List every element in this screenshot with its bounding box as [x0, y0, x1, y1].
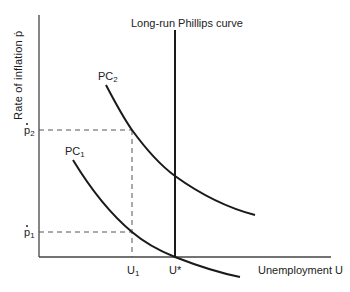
p2-tick-label: p2 — [24, 125, 35, 138]
lrpc-label: Long-run Phillips curve — [131, 18, 243, 29]
p1-tick-text: p — [24, 227, 30, 238]
pc2-curve — [106, 85, 255, 215]
pc2-label: PC2 — [98, 71, 118, 84]
p2-tick-sub: 2 — [30, 129, 34, 138]
u1-tick-label: U1 — [127, 265, 139, 278]
x-axis-label: Unemployment U — [258, 265, 343, 276]
u1-tick-text: U — [127, 264, 135, 276]
y-axis-label: Rate of inflation ṗ — [12, 31, 24, 120]
phillips-curve-chart — [0, 0, 350, 292]
pc1-label: PC1 — [65, 146, 85, 159]
u1-tick-sub: 1 — [135, 269, 139, 278]
p1-tick-sub: 1 — [30, 231, 34, 240]
pc1-label-text: PC — [65, 145, 80, 157]
p2-tick-text: p — [24, 125, 30, 136]
pc1-curve — [73, 160, 240, 277]
pc1-label-sub: 1 — [80, 150, 84, 159]
p1-tick-label: p1 — [24, 227, 35, 240]
pc2-label-text: PC — [98, 70, 113, 82]
ustar-tick-label: U* — [169, 265, 181, 276]
pc2-label-sub: 2 — [113, 75, 117, 84]
